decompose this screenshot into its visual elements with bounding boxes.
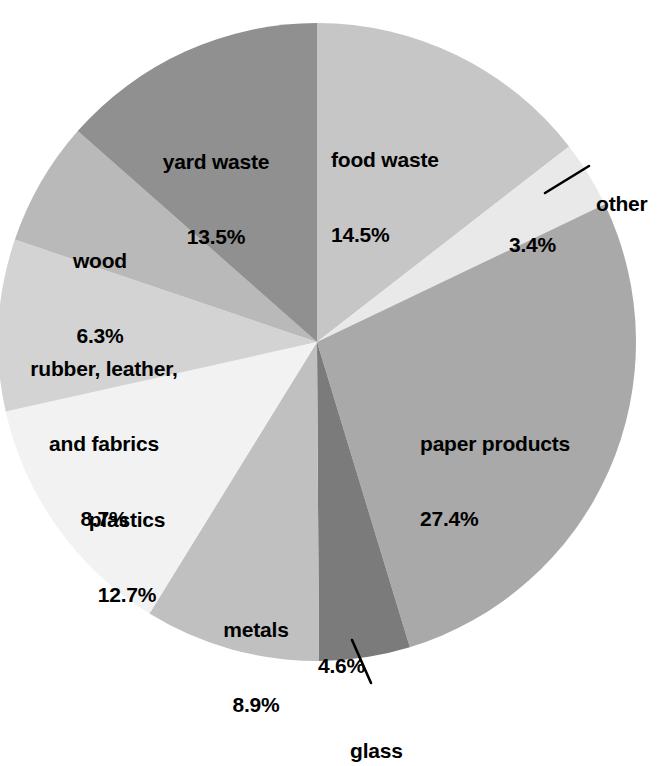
label-yard-waste: yard waste 13.5% — [136, 99, 296, 299]
label-plastics-percent: 12.7% — [62, 582, 192, 607]
label-paper-products: paper products 27.4% — [420, 381, 620, 581]
label-metals-percent: 8.9% — [196, 692, 316, 717]
label-glass-text: glass — [350, 738, 440, 763]
label-other-text: other — [596, 191, 666, 216]
label-metals-name: metals — [196, 617, 316, 642]
label-food-waste-name: food waste — [331, 147, 521, 172]
label-rubber-percent: 8.7% — [8, 506, 200, 531]
label-paper-products-percent: 27.4% — [420, 506, 620, 531]
label-food-waste: food waste 14.5% — [331, 97, 521, 297]
label-yard-waste-name: yard waste — [136, 149, 296, 174]
label-paper-products-name: paper products — [420, 431, 620, 456]
label-yard-waste-percent: 13.5% — [136, 224, 296, 249]
label-glass-name: glass — [350, 688, 440, 766]
label-rubber-line2: and fabrics — [8, 431, 200, 456]
label-other-percent: 3.4% — [509, 182, 589, 307]
label-other-name: other — [596, 141, 666, 266]
label-food-waste-percent: 14.5% — [331, 222, 521, 247]
label-other-percent-text: 3.4% — [509, 232, 589, 257]
label-glass-percent-text: 4.6% — [318, 653, 398, 678]
label-metals: metals 8.9% — [196, 567, 316, 766]
label-wood-percent: 6.3% — [40, 323, 160, 348]
